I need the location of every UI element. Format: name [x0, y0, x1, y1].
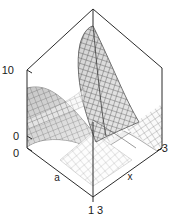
plot-root: 10 0 0 1 3 -3 a x — [0, 0, 178, 222]
x-tick-3: 3 — [97, 204, 103, 216]
z-tick-0: 0 — [13, 130, 19, 142]
z-tick-10: 10 — [2, 64, 14, 76]
x-tick-minus3: -3 — [158, 142, 168, 154]
surface-central-peak-shade — [78, 26, 139, 142]
a-axis-title: a — [54, 172, 60, 183]
x-axis-title: x — [128, 171, 133, 182]
a-tick-0: 0 — [13, 147, 19, 159]
surface-plot-figure: 10 0 0 1 3 -3 a x — [0, 0, 178, 222]
a-tick-1: 1 — [88, 204, 94, 216]
